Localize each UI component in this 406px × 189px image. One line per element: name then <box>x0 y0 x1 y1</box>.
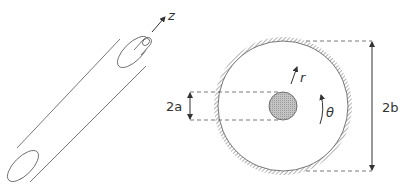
inner-diameter-label: 2a <box>166 99 182 114</box>
cylinder <box>2 31 153 186</box>
inner-conductor <box>269 92 297 120</box>
z-axis-arrow <box>152 17 165 32</box>
outer-diameter-label: 2b <box>382 100 399 115</box>
diagram-canvas: z 2a 2b r θ <box>0 0 406 189</box>
z-axis-label: z <box>167 8 176 23</box>
angular-label: θ <box>326 105 334 120</box>
cylinder-body <box>2 31 153 186</box>
cross-section: 2a 2b r θ <box>166 37 399 175</box>
